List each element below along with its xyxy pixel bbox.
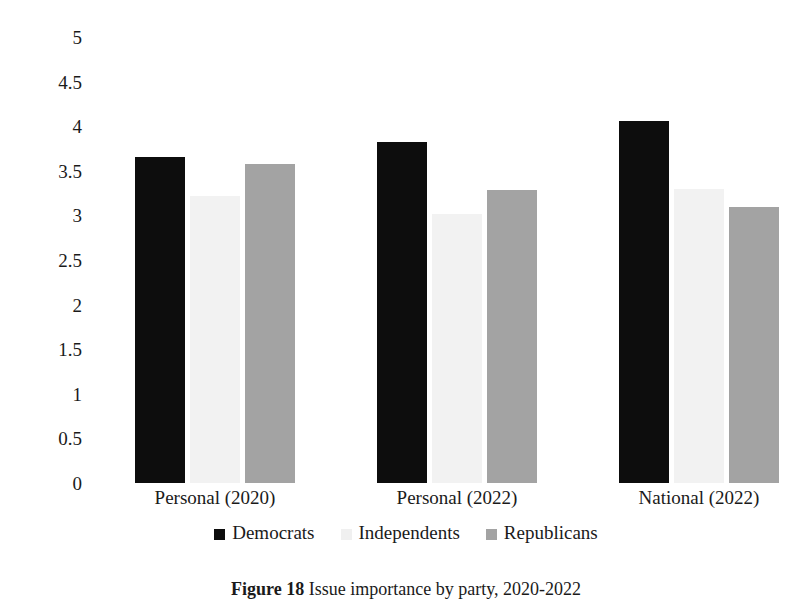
legend-item-label: Republicans — [504, 522, 598, 544]
legend-item-republicans[interactable]: Republicans — [486, 522, 598, 544]
bar-independents-national-2022- — [674, 189, 724, 483]
chart-legend: DemocratsIndependentsRepublicans — [0, 522, 812, 544]
bar-democrats-national-2022- — [619, 121, 669, 483]
legend-item-democrats[interactable]: Democrats — [214, 522, 314, 544]
bar-republicans-personal-2022- — [487, 190, 537, 483]
bar-groups — [95, 37, 795, 483]
y-axis-tick-label: 1 — [73, 384, 83, 403]
y-axis-tick-label: 3 — [73, 206, 83, 225]
x-axis-category-label: National (2022) — [639, 487, 760, 509]
bar-democrats-personal-2020- — [135, 157, 185, 483]
legend-swatch-icon — [341, 529, 352, 540]
legend-item-independents[interactable]: Independents — [341, 522, 460, 544]
y-axis-tick-label: 0.5 — [58, 429, 82, 448]
y-axis-tick-label: 2 — [73, 295, 83, 314]
legend-swatch-icon — [486, 529, 497, 540]
bar-democrats-personal-2022- — [377, 142, 427, 483]
y-axis-tick-labels: 54.543.532.521.510.50 — [0, 37, 90, 483]
x-axis-category-label: Personal (2022) — [397, 487, 518, 509]
x-axis-category-labels: Personal (2020)Personal (2022)National (… — [95, 487, 795, 513]
bar-independents-personal-2022- — [432, 214, 482, 483]
y-axis-tick-label: 4.5 — [58, 72, 82, 91]
y-axis-tick-label: 0 — [73, 474, 83, 493]
plot-area — [95, 37, 795, 483]
figure-caption: Figure 18 Issue importance by party, 202… — [0, 578, 812, 601]
y-axis-tick-label: 5 — [73, 28, 83, 47]
bar-republicans-national-2022- — [729, 207, 779, 483]
y-axis-tick-label: 3.5 — [58, 161, 82, 180]
x-axis-category-label: Personal (2020) — [155, 487, 276, 509]
y-axis-tick-label: 4 — [73, 117, 83, 136]
legend-item-label: Independents — [359, 522, 460, 544]
bar-independents-personal-2020- — [190, 196, 240, 483]
y-axis-tick-label: 1.5 — [58, 340, 82, 359]
bar-republicans-personal-2020- — [245, 164, 295, 483]
figure-caption-text: Issue importance by party, 2020-2022 — [309, 579, 581, 599]
legend-item-label: Democrats — [232, 522, 314, 544]
legend-swatch-icon — [214, 529, 225, 540]
y-axis-tick-label: 2.5 — [58, 251, 82, 270]
figure-caption-label: Figure 18 — [231, 579, 304, 599]
